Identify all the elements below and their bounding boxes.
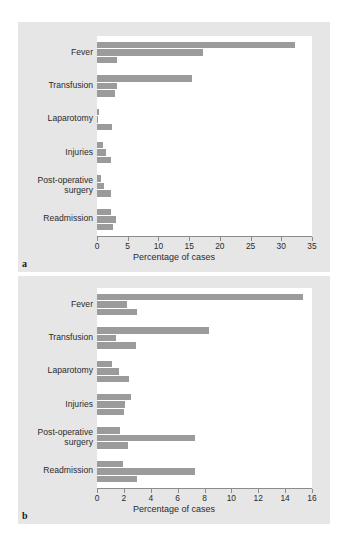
- bar: [97, 175, 101, 182]
- x-axis-title-b: Percentage of cases: [18, 504, 330, 514]
- bar: [97, 224, 113, 231]
- bar: [97, 42, 295, 49]
- bar: [97, 327, 209, 334]
- x-axis-tick-label: 6: [175, 493, 180, 503]
- bar: [97, 427, 120, 434]
- bar: [97, 394, 131, 401]
- bars-layer-b: [97, 288, 312, 488]
- bar: [97, 461, 123, 468]
- bar: [97, 149, 106, 156]
- category-label: Injuries: [65, 400, 93, 410]
- category-label: Transfusion: [48, 81, 93, 91]
- x-axis-tick: [312, 489, 313, 493]
- bar: [97, 57, 117, 64]
- x-axis-tick: [312, 237, 313, 241]
- bar: [97, 216, 116, 223]
- bar: [97, 468, 195, 475]
- x-axis-tick: [189, 237, 190, 241]
- category-label: Fever: [71, 300, 93, 310]
- bar: [97, 342, 136, 349]
- bar: [97, 209, 111, 216]
- category-label: Injuries: [65, 148, 93, 158]
- x-axis-tick: [281, 237, 282, 241]
- bar: [97, 361, 112, 368]
- bar: [97, 83, 117, 90]
- x-axis-tick-label: 5: [125, 241, 130, 251]
- category-label: Readmission: [43, 214, 93, 224]
- bar: [97, 190, 111, 197]
- x-axis-tick-label: 35: [307, 241, 316, 251]
- plot-area-a: [97, 36, 312, 236]
- x-axis-tick-label: 12: [254, 493, 263, 503]
- bar: [97, 142, 103, 149]
- chart-panel-b: b FeverTransfusionLaparotomyInjuriesPost…: [18, 276, 330, 524]
- figure-root: a FeverTransfusionLaparotomyInjuriesPost…: [0, 0, 343, 540]
- x-axis-tick: [124, 489, 125, 493]
- bar: [97, 116, 98, 123]
- bar: [97, 124, 112, 131]
- x-axis-tick-label: 16: [307, 493, 316, 503]
- category-axis-labels-b: FeverTransfusionLaparotomyInjuriesPost-o…: [18, 288, 93, 488]
- bar: [97, 435, 195, 442]
- bar: [97, 301, 127, 308]
- x-axis-tick: [220, 237, 221, 241]
- category-label: Post-operativesurgery: [38, 176, 93, 195]
- x-axis-tick-label: 20: [215, 241, 224, 251]
- x-axis-tick-label: 15: [184, 241, 193, 251]
- bars-layer-a: [97, 36, 312, 236]
- x-axis-tick: [231, 489, 232, 493]
- x-axis-tick-label: 0: [95, 241, 100, 251]
- bar: [97, 409, 124, 416]
- x-axis-tick: [151, 489, 152, 493]
- bar: [97, 335, 116, 342]
- bar: [97, 75, 192, 82]
- x-axis-tick-label: 10: [154, 241, 163, 251]
- category-label: Laparotomy: [48, 366, 93, 376]
- category-label: Fever: [71, 48, 93, 58]
- x-axis-tick-label: 30: [277, 241, 286, 251]
- bar: [97, 368, 119, 375]
- x-axis-title-a: Percentage of cases: [18, 252, 330, 262]
- x-axis-tick-label: 8: [202, 493, 207, 503]
- category-label: Laparotomy: [48, 114, 93, 124]
- x-axis-tick-label: 2: [122, 493, 127, 503]
- bar: [97, 476, 137, 483]
- category-axis-labels-a: FeverTransfusionLaparotomyInjuriesPost-o…: [18, 36, 93, 236]
- x-axis-tick: [251, 237, 252, 241]
- x-axis-tick: [258, 489, 259, 493]
- bar: [97, 49, 203, 56]
- x-axis-tick: [178, 489, 179, 493]
- x-axis-tick: [97, 237, 98, 241]
- bar: [97, 442, 128, 449]
- category-label: Readmission: [43, 466, 93, 476]
- bar: [97, 90, 115, 97]
- x-axis-tick-label: 14: [280, 493, 289, 503]
- bar: [97, 183, 104, 190]
- x-axis-tick-label: 0: [95, 493, 100, 503]
- bar: [97, 376, 129, 383]
- category-label: Post-operativesurgery: [38, 428, 93, 447]
- x-axis-tick: [128, 237, 129, 241]
- bar: [97, 309, 137, 316]
- chart-panel-a: a FeverTransfusionLaparotomyInjuriesPost…: [18, 22, 330, 272]
- x-axis-tick-label: 25: [246, 241, 255, 251]
- x-axis-line: [97, 236, 312, 237]
- category-label: Transfusion: [48, 333, 93, 343]
- x-axis-tick: [97, 489, 98, 493]
- bar: [97, 401, 125, 408]
- x-axis-tick-label: 4: [148, 493, 153, 503]
- x-axis-tick: [158, 237, 159, 241]
- bar: [97, 294, 303, 301]
- x-axis-tick: [285, 489, 286, 493]
- x-axis-tick-label: 10: [227, 493, 236, 503]
- plot-area-b: [97, 288, 312, 488]
- x-axis-tick: [205, 489, 206, 493]
- bar: [97, 109, 99, 116]
- bar: [97, 157, 111, 164]
